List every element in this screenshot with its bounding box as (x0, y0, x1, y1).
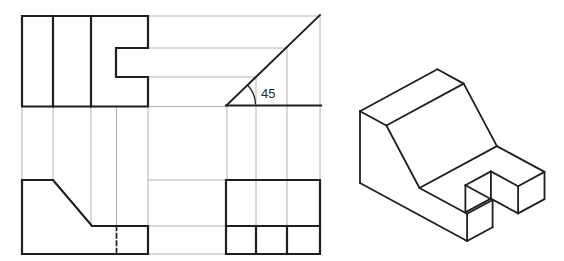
projection-lines (22, 16, 320, 254)
isometric-edge (465, 185, 492, 200)
drawing-canvas: 45 (0, 0, 564, 261)
top-view (22, 16, 148, 107)
engineering-drawing-svg: 45 (0, 0, 564, 261)
outline-path (22, 180, 148, 254)
isometric-edge (465, 171, 491, 185)
isometric-edge (420, 188, 468, 214)
outline-path (247, 85, 255, 105)
isometric-edge (491, 171, 518, 186)
isometric-edge (497, 146, 545, 172)
isometric-edge (464, 84, 497, 147)
isometric-edge (518, 172, 544, 186)
isometric-edge (420, 146, 497, 188)
isometric-edge (437, 69, 463, 83)
outline-path (22, 16, 148, 107)
isometric-edge (467, 227, 493, 241)
isometric-edge (386, 126, 419, 189)
side-view (226, 180, 320, 254)
isometric-edge (518, 199, 544, 213)
isometric-edge (360, 183, 467, 241)
outline-path (226, 180, 320, 254)
isometric-edge (491, 199, 518, 214)
isometric-view (360, 69, 545, 241)
angle-label: 45 (261, 86, 275, 101)
isometric-edge (360, 111, 386, 125)
isometric-edge (465, 199, 491, 213)
front-view (22, 180, 148, 254)
isometric-edge (467, 200, 493, 214)
